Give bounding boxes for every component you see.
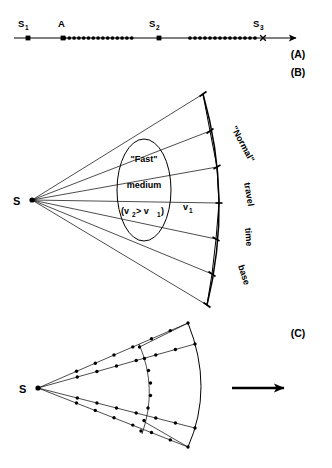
- arc-label-word-2: travel: [242, 182, 256, 207]
- panel-c: (C) S: [19, 321, 305, 448]
- label-s1-base: S: [18, 18, 24, 29]
- ray-4: [32, 200, 219, 203]
- arc-label-word-1: "Normal": [229, 124, 256, 164]
- panel-b-source-label: S: [13, 195, 20, 207]
- label-s1-sub: 1: [25, 24, 29, 31]
- ray-fan-b: [32, 94, 219, 305]
- arc-label-group: "Normal" travel time base: [229, 124, 256, 286]
- panel-label-b: (B): [291, 66, 306, 78]
- diagram-canvas: S 1 A S 2 S 3 (A) (B) S: [0, 0, 332, 468]
- shotpoint-marker-s2: [157, 36, 162, 41]
- panel-b: (B) S: [13, 66, 305, 308]
- fast-medium-line-1: "Fast": [130, 154, 157, 164]
- ray-7: [32, 200, 207, 305]
- detector-group-1: [63, 36, 134, 40]
- velocity-condition: (v 2 > v 1 ): [121, 206, 164, 218]
- velocity-condition-suffix: ): [161, 206, 164, 216]
- wavefront-connectors-c: [140, 323, 189, 447]
- label-s2-sub: 2: [156, 24, 160, 31]
- background-velocity-label: v 1: [183, 202, 193, 214]
- panel-label-c: (C): [291, 327, 306, 339]
- label-s2-base: S: [149, 18, 155, 29]
- label-a-base: A: [58, 18, 65, 29]
- arc-label-word-4: base: [236, 264, 252, 287]
- ray-c-1-dots: [75, 321, 190, 373]
- ray-3: [32, 167, 217, 200]
- fast-medium-line-2: medium: [127, 180, 162, 190]
- label-s3-base: S: [253, 18, 259, 29]
- arc-label-word-3: time: [243, 227, 254, 246]
- background-velocity-sub: 1: [189, 207, 193, 214]
- velocity-condition-prefix: (v: [121, 206, 129, 216]
- panel-a: S 1 A S 2 S 3 (A): [14, 18, 305, 60]
- velocity-condition-operator: > v: [136, 206, 149, 216]
- background-velocity-base: v: [183, 202, 188, 212]
- ray-2: [32, 131, 210, 200]
- ray-c-3-dots: [76, 396, 197, 429]
- ray-c-4-dots: [75, 401, 190, 448]
- panel-c-source-label: S: [19, 383, 26, 395]
- figure-root: S 1 A S 2 S 3 (A) (B) S: [0, 0, 332, 468]
- label-s3-sub: 3: [260, 24, 264, 31]
- shotpoint-marker-s1: [26, 36, 31, 41]
- panel-label-a: (A): [291, 48, 306, 60]
- inner-arc-dots-c: [138, 345, 152, 432]
- ray-fan-c: [38, 323, 195, 447]
- outer-wavefront-arc-c: [188, 323, 201, 447]
- ray-c-2-dots: [76, 342, 197, 378]
